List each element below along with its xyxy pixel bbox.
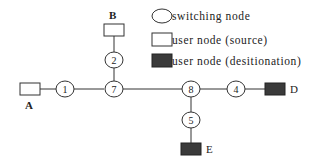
user-node-label-D: D [290, 83, 298, 95]
legend-label-switching-node: switching node [172, 10, 250, 23]
switching-node-label-4: 4 [234, 84, 239, 95]
destination-box-D [265, 83, 285, 95]
legend-label-source-node: user node (source) [172, 34, 268, 47]
legend-label-destination-node: user node (desitionation) [172, 55, 301, 68]
switching-node-label-7: 7 [112, 84, 117, 95]
switching-node-4: 4 [227, 81, 245, 97]
legend-source-node-icon [152, 33, 172, 46]
source-box-A [20, 83, 40, 95]
user-node-label-B: B [109, 9, 117, 21]
user-node-label-A: A [25, 99, 33, 111]
switching-node-5: 5 [182, 112, 200, 128]
user-node-B: B [104, 9, 124, 36]
switching-node-8: 8 [182, 81, 200, 97]
legend-destination-node-icon [152, 54, 172, 67]
switching-node-label-5: 5 [189, 115, 194, 126]
user-node-A: A [20, 83, 40, 111]
switching-node-label-8: 8 [189, 84, 194, 95]
network-diagram: B 2 A 1 7 8 4 D 5 E [0, 0, 310, 167]
user-node-E: E [181, 143, 213, 155]
switching-node-1: 1 [56, 81, 74, 97]
legend-switching-node-icon [152, 9, 172, 23]
switching-node-7: 7 [105, 81, 123, 97]
switching-node-label-2: 2 [112, 55, 117, 66]
destination-box-E [181, 143, 201, 155]
user-node-label-E: E [206, 143, 213, 155]
source-box-B [104, 24, 124, 36]
user-node-D: D [265, 83, 298, 95]
legend: switching node user node (source) user n… [152, 9, 301, 68]
switching-node-2: 2 [105, 52, 123, 68]
switching-node-label-1: 1 [63, 84, 68, 95]
